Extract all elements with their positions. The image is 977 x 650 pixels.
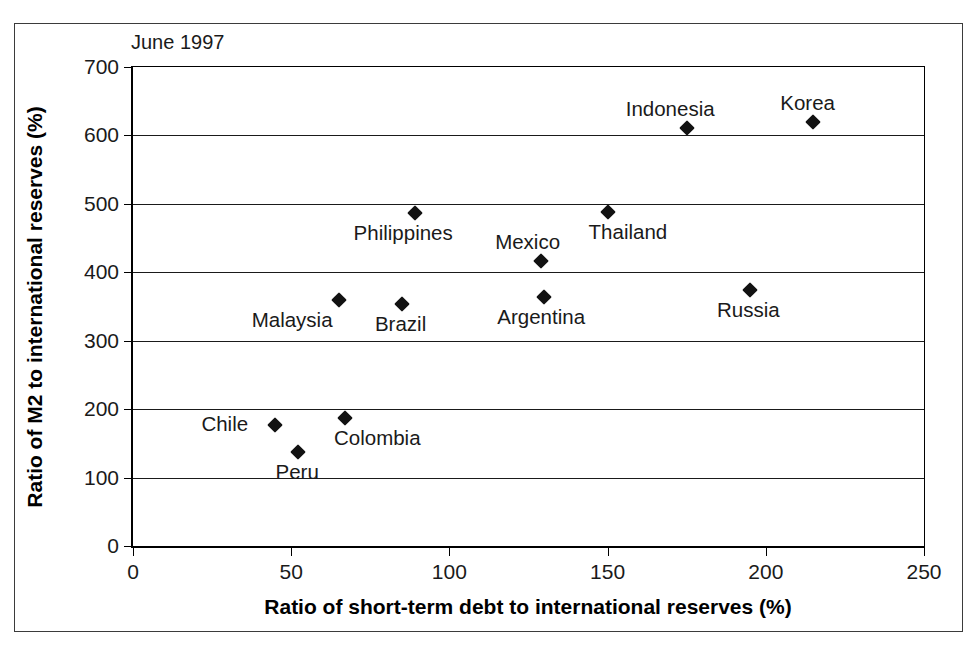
y-axis-tick-label: 600 [84, 123, 119, 147]
data-point-label: Philippines [354, 223, 453, 244]
gridline-horizontal [133, 135, 924, 136]
data-point-label: Malaysia [252, 310, 333, 331]
x-axis-tick [608, 546, 609, 556]
y-axis-tick-label: 500 [84, 192, 119, 216]
gridline-horizontal [133, 409, 924, 410]
y-axis-tick [124, 341, 133, 342]
y-axis-tick [124, 546, 133, 547]
data-point-marker [331, 292, 347, 308]
data-point-marker [537, 289, 553, 305]
x-axis-title: Ratio of short-term debt to internationa… [131, 595, 925, 619]
x-axis-tick [449, 546, 450, 556]
x-axis-tick-label: 100 [432, 560, 467, 584]
y-axis-title: Ratio of M2 to international reserves (%… [21, 66, 49, 548]
data-point-marker [533, 253, 549, 269]
data-point-label: Chile [201, 414, 248, 435]
x-axis-tick-label: 150 [590, 560, 625, 584]
data-point-marker [742, 282, 758, 298]
y-axis-tick-label: 100 [84, 466, 119, 490]
plot-area: 0100200300400500600700050100150200250Chi… [131, 66, 925, 548]
data-point-label: Mexico [495, 232, 560, 253]
data-point-label: Indonesia [626, 99, 715, 120]
y-axis-tick-label: 0 [107, 534, 119, 558]
y-axis-tick-label: 700 [84, 55, 119, 79]
data-point-marker [600, 204, 616, 220]
y-axis-tick [124, 478, 133, 479]
data-point-label: Peru [276, 462, 319, 483]
gridline-horizontal [133, 341, 924, 342]
gridline-horizontal [133, 478, 924, 479]
x-axis-tick [291, 546, 292, 556]
data-point-marker [679, 120, 695, 136]
data-point-label: Colombia [334, 428, 421, 449]
y-axis-tick [124, 272, 133, 273]
x-axis-tick [133, 546, 134, 556]
gridline-horizontal [133, 272, 924, 273]
data-point-label: Thailand [589, 222, 668, 243]
data-point-marker [337, 410, 353, 426]
data-point-label: Russia [717, 300, 780, 321]
chart-date-note: June 1997 [131, 31, 224, 54]
data-point-label: Korea [780, 93, 835, 114]
x-axis-tick [766, 546, 767, 556]
data-point-label: Brazil [375, 314, 426, 335]
x-axis-tick-label: 250 [906, 560, 941, 584]
figure-canvas: June 1997 Ratio of M2 to international r… [0, 0, 977, 650]
data-point-marker [805, 115, 821, 131]
x-axis-tick-label: 0 [127, 560, 139, 584]
y-axis-tick [124, 135, 133, 136]
y-axis-tick-label: 200 [84, 397, 119, 421]
gridline-horizontal [133, 204, 924, 205]
data-point-marker [407, 206, 423, 222]
data-point-marker [268, 417, 284, 433]
y-axis-tick-label: 400 [84, 260, 119, 284]
y-axis-tick-label: 300 [84, 329, 119, 353]
data-point-marker [394, 297, 410, 313]
data-point-marker [290, 444, 306, 460]
y-axis-tick [124, 204, 133, 205]
data-point-label: Argentina [497, 307, 585, 328]
x-axis-tick [924, 546, 925, 556]
y-axis-title-text: Ratio of M2 to international reserves (%… [23, 106, 47, 507]
x-axis-tick-label: 200 [748, 560, 783, 584]
y-axis-tick [124, 67, 133, 68]
x-axis-tick-label: 50 [280, 560, 303, 584]
y-axis-tick [124, 409, 133, 410]
